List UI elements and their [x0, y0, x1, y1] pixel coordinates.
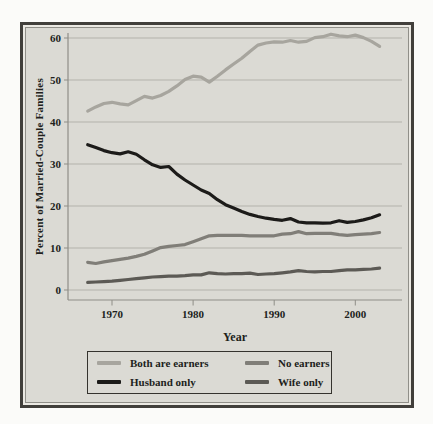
legend: Both are earnersNo earnersHusband onlyWi…: [87, 351, 332, 394]
legend-item-no-earners: No earners: [245, 357, 331, 369]
legend-item-wife-only: Wife only: [245, 376, 331, 388]
y-tick-label-0: 0: [56, 284, 62, 296]
legend-swatch: [97, 361, 121, 365]
line-chart: 01020304050601970198019902000: [23, 25, 411, 405]
y-tick-label-40: 40: [50, 116, 62, 128]
series-line-both-are-earners: [88, 34, 380, 111]
y-tick-label-30: 30: [50, 158, 62, 170]
legend-label: No earners: [278, 357, 330, 369]
figure-page: 01020304050601970198019902000 Percent of…: [0, 0, 433, 424]
legend-label: Both are earners: [130, 357, 209, 369]
legend-label: Wife only: [278, 376, 323, 388]
legend-swatch: [245, 361, 269, 365]
x-tick-label-1970: 1970: [101, 308, 124, 320]
legend-label: Husband only: [130, 376, 196, 388]
x-axis-title: Year: [185, 330, 285, 345]
legend-item-husband-only: Husband only: [97, 376, 245, 388]
x-tick-label-1990: 1990: [263, 308, 286, 320]
y-tick-label-50: 50: [50, 74, 62, 86]
y-tick-label-60: 60: [50, 32, 62, 44]
legend-swatch: [245, 380, 269, 384]
series-line-husband-only: [88, 145, 380, 224]
legend-item-both-are-earners: Both are earners: [97, 357, 245, 369]
series-line-wife-only: [88, 268, 380, 282]
chart-panel: 01020304050601970198019902000 Percent of…: [20, 22, 414, 408]
x-tick-label-2000: 2000: [344, 308, 367, 320]
y-axis-title: Percent of Married-Couple Families: [33, 46, 48, 288]
y-tick-label-10: 10: [50, 242, 62, 254]
x-tick-label-1980: 1980: [182, 308, 205, 320]
y-tick-label-20: 20: [50, 200, 62, 212]
legend-swatch: [97, 380, 121, 384]
